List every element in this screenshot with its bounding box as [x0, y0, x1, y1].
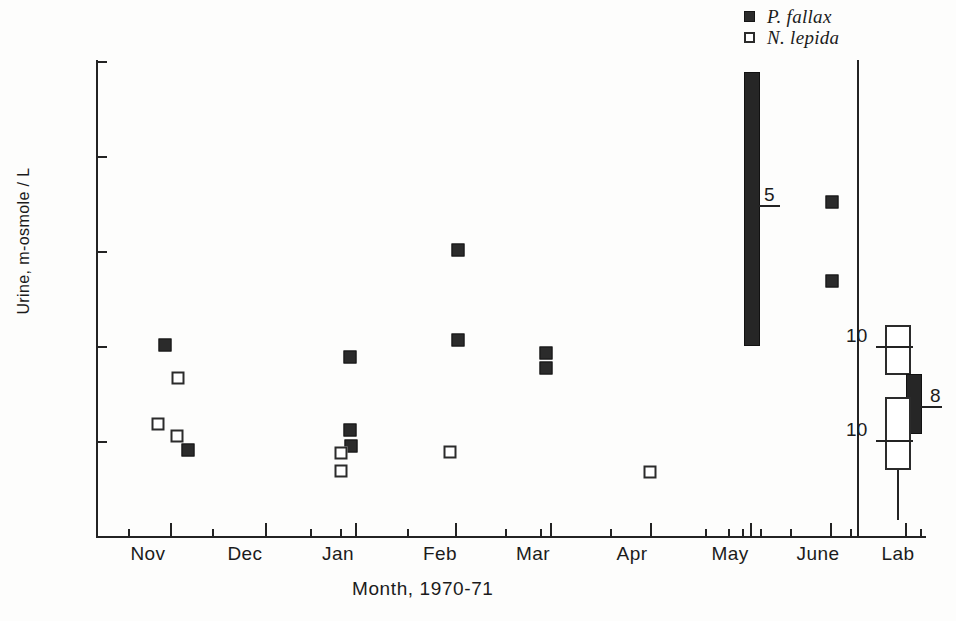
filled-square-icon	[744, 11, 755, 22]
x-axis-line	[96, 536, 926, 538]
x-tick-minor	[790, 529, 792, 537]
range-mean-tick	[876, 346, 913, 348]
x-tick-minor	[705, 529, 707, 537]
range-bar	[744, 72, 760, 347]
y-tick-5000	[98, 61, 107, 63]
data-point	[159, 339, 172, 352]
chart-legend: P. fallax N. lepida	[744, 6, 839, 48]
y-tick-4000	[98, 156, 107, 158]
x-tick-minor	[505, 529, 507, 537]
sample-size-label: 10	[846, 325, 868, 347]
x-axis-title: Month, 1970-71	[352, 578, 494, 600]
x-tick-minor	[340, 529, 342, 537]
x-tick-minor	[728, 529, 730, 537]
data-point	[826, 275, 839, 288]
x-tick-minor	[212, 529, 214, 537]
y-axis-line	[96, 60, 98, 538]
x-tick-major	[355, 523, 357, 537]
x-tick-minor	[128, 529, 130, 537]
x-tick-minor	[540, 529, 542, 537]
data-point	[172, 372, 185, 385]
y-axis-title: Urine, m-osmole / L	[15, 151, 33, 331]
x-axis-label-nov: Nov	[131, 543, 166, 565]
x-tick-major	[265, 523, 267, 537]
x-axis-label-lab: Lab	[882, 543, 915, 565]
x-tick-major	[750, 523, 752, 537]
y-tick-3000	[98, 251, 107, 253]
data-point	[644, 466, 657, 479]
x-tick-minor	[742, 529, 744, 537]
data-point	[335, 447, 348, 460]
legend-item-p-fallax: P. fallax	[744, 6, 839, 27]
x-tick-minor	[610, 529, 612, 537]
sample-size-label: 10	[846, 419, 868, 441]
data-point	[540, 361, 553, 374]
legend-label-n-lepida: N. lepida	[767, 27, 839, 49]
data-point	[344, 423, 357, 436]
data-point	[182, 443, 195, 456]
lab-panel-divider	[857, 60, 859, 538]
sample-size-label: 5	[764, 184, 775, 206]
data-point	[452, 244, 465, 257]
x-tick-minor	[850, 529, 852, 537]
x-tick-major	[650, 523, 652, 537]
data-point	[452, 334, 465, 347]
x-tick-major	[905, 523, 907, 537]
x-tick-major	[170, 523, 172, 537]
data-point	[171, 430, 184, 443]
legend-item-n-lepida: N. lepida	[744, 27, 839, 48]
range-mean-tick	[876, 440, 913, 442]
x-tick-major	[550, 523, 552, 537]
open-square-icon	[744, 32, 755, 43]
x-axis-label-jan: Jan	[322, 543, 354, 565]
x-axis-label-june: June	[797, 543, 840, 565]
data-point	[540, 346, 553, 359]
x-tick-minor	[760, 529, 762, 537]
y-tick-2000	[98, 346, 107, 348]
x-axis-label-feb: Feb	[423, 543, 457, 565]
x-tick-major	[455, 523, 457, 537]
x-axis-label-dec: Dec	[228, 543, 263, 565]
x-tick-minor	[310, 529, 312, 537]
chart-figure: P. fallax N. lepida 50004000300020001000…	[0, 0, 956, 621]
x-axis-label-apr: Apr	[617, 543, 648, 565]
range-bar	[885, 325, 911, 375]
sample-size-label: 8	[930, 385, 941, 407]
y-tick-1000	[98, 441, 107, 443]
x-tick-minor	[407, 529, 409, 537]
legend-label-p-fallax: P. fallax	[767, 6, 832, 28]
data-point	[344, 351, 357, 364]
x-tick-minor	[920, 529, 922, 537]
data-point	[152, 417, 165, 430]
data-point	[826, 195, 839, 208]
range-bar	[885, 397, 911, 470]
x-axis-label-may: May	[711, 543, 748, 565]
x-tick-major	[830, 523, 832, 537]
data-point	[335, 464, 348, 477]
data-point	[444, 446, 457, 459]
x-axis-label-mar: Mar	[516, 543, 550, 565]
